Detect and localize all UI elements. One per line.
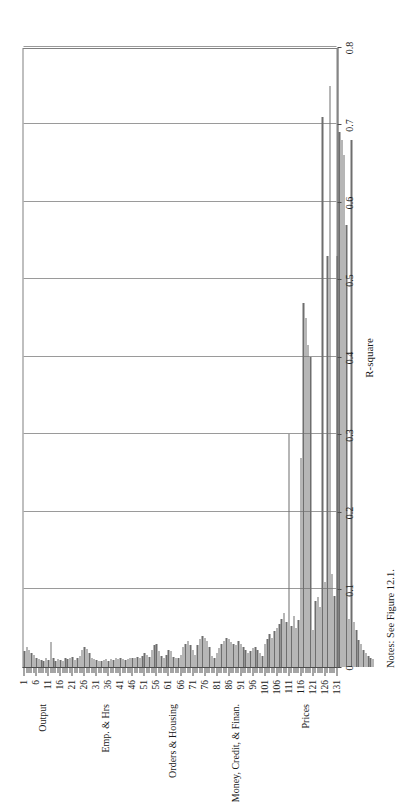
category-axis-tick [175,668,176,673]
bar [52,658,53,667]
value-axis-tick-label: 0.6 [343,197,354,210]
category-axis-tick [223,668,224,673]
value-axis-tick [337,202,341,203]
category-axis-tick [93,668,94,673]
category-axis-tick [252,668,253,676]
category-axis-tick [326,668,327,673]
category-axis-tick [280,668,281,673]
category-axis-tick [59,668,60,676]
bar [240,644,241,667]
category-axis-tick [141,668,142,673]
category-axis-tick [155,668,156,676]
category-axis-tick [276,668,277,676]
bar [194,655,195,667]
value-axis-tick [337,512,341,513]
category-axis-tick [71,668,72,676]
category-axis-tick [131,668,132,676]
category-axis-tick [259,668,260,673]
category-axis-tick-label: 16 [54,680,64,700]
category-axis-tick [124,668,125,673]
category-axis-tick [115,668,116,673]
category-axis-tick [100,668,101,673]
value-axis-tick-label: 0.7 [343,119,354,132]
category-axis-tick [23,668,24,676]
category-axis-tick [95,668,96,676]
bar [297,621,298,668]
bar [355,630,356,667]
category-axis-tick [33,668,34,673]
category-axis-tick [309,668,310,673]
category-axis-tick-label: 91 [235,680,245,700]
bar [259,653,260,667]
category-axis-tick [225,668,226,673]
bar [312,630,313,667]
bar [151,650,152,667]
bar [83,647,84,667]
category-axis-tick [240,668,241,676]
category-axis-tick-label: 71 [187,680,197,700]
category-axis-tick [261,668,262,673]
group-label-text: Prices [299,704,310,728]
value-axis-tick [337,435,341,436]
category-axis-tick [30,668,31,673]
category-axis-tick-label: 11 [42,680,52,700]
bar [353,622,354,667]
group-label-text: Money, Credit, & Finan. [229,704,240,802]
bar [91,658,92,667]
bar [26,647,27,667]
bar [122,659,123,667]
category-group-label: Money, Credit, & Finan. [229,704,241,730]
bar [213,658,214,667]
bar [79,656,80,667]
bar [146,655,147,667]
bar [206,641,207,667]
category-axis-tick-label: 21 [66,680,76,700]
bar [201,636,202,667]
category-axis-tick [256,668,257,673]
category-axis-tick [139,668,140,673]
category-axis-tick-label: 121 [307,680,317,700]
category-axis-tick [74,668,75,673]
figure-notes: Notes: See Figure 12.1. [384,569,395,668]
bar [40,660,41,667]
bar [136,657,137,667]
category-axis-tick [300,668,301,676]
category-axis-tick [167,668,168,676]
category-axis-tick [189,668,190,673]
category-axis-tick [194,668,195,673]
category-axis-tick [172,668,173,673]
category-axis-tick [213,668,214,673]
category-axis-tick [57,668,58,673]
bar [187,641,188,667]
bar [103,660,104,667]
category-axis-tick [230,668,231,673]
bar [184,644,185,667]
bar [139,658,140,667]
bar [196,645,197,667]
category-group-label: Output [36,704,48,730]
bar [329,86,330,667]
bar [170,652,171,668]
category-axis-tick-label: 46 [126,680,136,700]
category-axis-tick [143,668,144,676]
category-axis-tick [312,668,313,676]
bar [300,458,301,667]
category-axis-tick [314,668,315,673]
bar [208,647,209,667]
bar [321,117,322,667]
bar [177,658,178,667]
bar [319,607,320,667]
bar [360,644,361,667]
bar [33,655,34,667]
category-axis-tick-label: 111 [283,680,293,700]
bar [141,656,142,667]
bar [230,642,231,667]
bar [278,624,279,667]
category-axis-tick [324,668,325,676]
category-axis-tick [40,668,41,673]
category-axis-tick [228,668,229,676]
bar [175,658,176,667]
category-axis-tick [288,668,289,676]
category-axis-tick [333,668,334,673]
